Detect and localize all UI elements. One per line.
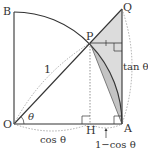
unit-circle-diagram: B O A H P Q 1 θ cos θ tan θ 1−cos θ — [0, 0, 148, 151]
label-theta: θ — [28, 111, 34, 122]
angle-arc-theta — [21, 117, 24, 125]
arrow-head — [105, 128, 108, 131]
label-one-minus-cos: 1−cos θ — [95, 139, 136, 150]
diagram-canvas: B O A H P Q 1 θ cos θ tan θ 1−cos θ — [0, 0, 148, 151]
label-tan: tan θ — [123, 61, 148, 72]
label-o: O — [3, 118, 12, 131]
cos-brace — [14, 124, 90, 131]
label-radius: 1 — [44, 63, 51, 76]
label-q: Q — [123, 1, 132, 14]
label-cos: cos θ — [40, 134, 66, 145]
right-angle-marker-h — [82, 116, 90, 124]
label-b: B — [3, 5, 11, 18]
label-p: P — [86, 30, 94, 43]
label-a: A — [123, 122, 133, 135]
label-h: H — [86, 124, 96, 137]
